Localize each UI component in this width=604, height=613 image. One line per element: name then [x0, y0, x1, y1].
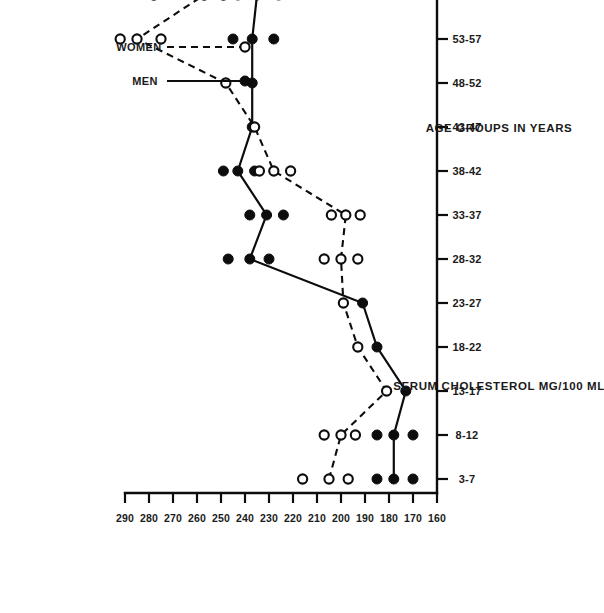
data-point-marker — [408, 474, 418, 484]
data-point-marker — [355, 210, 364, 219]
value-axis-tick-label: 250 — [211, 512, 229, 523]
value-axis-tick-label: 210 — [307, 512, 325, 523]
data-point-mean-marker — [250, 122, 259, 131]
data-point-marker — [372, 430, 382, 440]
value-axis-tick-label: 230 — [259, 512, 277, 523]
category-axis-tick-label: 33-37 — [452, 209, 481, 220]
data-point-marker — [408, 430, 418, 440]
data-point-marker — [278, 210, 288, 220]
data-point-mean-marker — [336, 430, 345, 439]
data-point-mean-marker — [324, 474, 333, 483]
data-point-mean-marker — [221, 78, 230, 87]
data-point-mean-marker — [341, 210, 350, 219]
data-point-marker — [326, 210, 335, 219]
value-axis-tick-label: 180 — [379, 512, 397, 523]
data-point-marker — [343, 474, 352, 483]
data-point-marker — [218, 166, 228, 176]
data-point-mean-marker — [388, 430, 398, 440]
value-axis-tick-label: 260 — [187, 512, 205, 523]
category-axis-tick-label: 28-32 — [452, 253, 481, 264]
data-point-marker — [244, 210, 254, 220]
data-point-marker — [353, 254, 362, 263]
data-point-marker — [228, 34, 238, 44]
legend-marker-women — [240, 42, 249, 51]
series-line-men — [225, 0, 405, 479]
value-axis-tick-label: 270 — [163, 512, 181, 523]
data-point-mean-marker — [244, 254, 254, 264]
data-point-marker — [223, 254, 233, 264]
category-axis-tick-label: 18-22 — [452, 341, 481, 352]
data-point-mean-marker — [372, 342, 382, 352]
legend-label-women: WOMEN — [116, 41, 161, 52]
value-axis-tick-label: 160 — [427, 512, 445, 523]
data-point-marker — [264, 254, 274, 264]
series-layer — [115, 0, 417, 484]
data-point-marker — [286, 166, 295, 175]
value-axis-tick-label: 200 — [331, 512, 349, 523]
category-axis-tick-label: 3-7 — [458, 473, 475, 484]
axes-layer — [125, 0, 448, 503]
data-point-marker — [319, 430, 328, 439]
rotated-plot-wrapper: 2902802702602502402302202102001901801701… — [97, 0, 517, 517]
value-axis-tick-label: 190 — [355, 512, 373, 523]
category-axis-tick-label: 53-57 — [452, 33, 481, 44]
data-point-mean-marker — [338, 298, 347, 307]
data-point-mean-marker — [261, 210, 271, 220]
data-point-mean-marker — [247, 34, 257, 44]
data-point-mean-marker — [269, 166, 278, 175]
data-point-marker — [319, 254, 328, 263]
category-axis-tick-label: 23-27 — [452, 297, 481, 308]
y-axis-title: SERUM CHOLESTEROL MG/100 ML — [393, 381, 604, 393]
data-point-mean-marker — [357, 298, 367, 308]
data-point-marker — [372, 474, 382, 484]
category-axis-tick-label: 38-42 — [452, 165, 481, 176]
category-axis-tick-label: 8-12 — [455, 429, 478, 440]
data-point-mean-marker — [336, 254, 345, 263]
value-axis-tick-label: 290 — [115, 512, 133, 523]
legend-layer — [167, 42, 250, 86]
value-axis-tick-label: 220 — [283, 512, 301, 523]
data-point-marker — [298, 474, 307, 483]
value-axis-tick-label: 280 — [139, 512, 157, 523]
data-point-marker — [350, 430, 359, 439]
data-point-marker — [268, 34, 278, 44]
data-point-marker — [254, 166, 263, 175]
data-point-mean-marker — [382, 386, 391, 395]
value-axis-tick-label: 170 — [403, 512, 421, 523]
category-axis-tick-label: 48-52 — [452, 77, 481, 88]
value-axis-tick-label: 240 — [235, 512, 253, 523]
series-line-women — [137, 0, 387, 479]
data-point-mean-marker — [388, 474, 398, 484]
x-axis-title: AGE GROUPS IN YEARS — [425, 123, 572, 135]
legend-marker-men — [240, 76, 250, 86]
plot-area: 2902802702602502402302202102001901801701… — [97, 0, 517, 517]
legend-label-men: MEN — [132, 75, 158, 86]
data-point-mean-marker — [232, 166, 242, 176]
data-point-mean-marker — [353, 342, 362, 351]
